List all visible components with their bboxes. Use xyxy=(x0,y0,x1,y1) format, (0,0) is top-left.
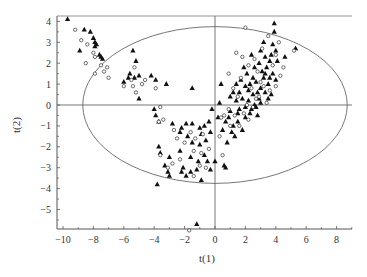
triangle-marker xyxy=(264,64,269,69)
circle-marker xyxy=(247,118,250,121)
triangle-marker xyxy=(202,123,207,128)
circle-marker xyxy=(131,84,134,87)
circle-marker xyxy=(102,70,105,73)
x-tick-label: 6 xyxy=(304,234,309,245)
circle-marker xyxy=(130,78,133,81)
y-tick-label: 0 xyxy=(46,100,51,111)
circle-marker xyxy=(143,78,146,81)
triangle-marker xyxy=(203,138,208,143)
circle-marker xyxy=(277,41,280,44)
y-tick-label: 3 xyxy=(46,37,51,48)
circle-marker xyxy=(274,84,277,87)
triangle-marker xyxy=(240,96,245,101)
triangle-marker xyxy=(88,29,93,34)
triangle-marker xyxy=(205,158,210,163)
circle-marker xyxy=(187,229,190,232)
triangle-marker xyxy=(82,27,87,32)
triangle-marker xyxy=(272,29,277,34)
circle-marker xyxy=(219,116,222,119)
circle-marker xyxy=(175,137,178,140)
triangle-marker xyxy=(196,158,201,163)
triangle-marker xyxy=(246,98,251,103)
circle-marker xyxy=(200,151,203,154)
x-tick-label: −2 xyxy=(179,234,190,245)
triangle-marker xyxy=(152,106,157,111)
circle-marker xyxy=(227,107,230,110)
circle-marker xyxy=(218,135,221,138)
triangle-marker xyxy=(206,119,211,124)
circle-marker xyxy=(253,57,256,60)
triangle-marker xyxy=(270,71,275,76)
y-tick-label: −5 xyxy=(40,204,51,215)
triangle-marker xyxy=(226,115,231,120)
triangle-marker xyxy=(155,181,160,186)
circle-marker xyxy=(207,147,210,150)
triangle-marker xyxy=(218,81,223,86)
triangle-marker xyxy=(179,125,184,130)
triangle-marker xyxy=(267,58,272,63)
x-tick-label: −4 xyxy=(149,234,160,245)
circle-marker xyxy=(267,34,270,37)
circle-marker xyxy=(279,74,282,77)
circle-marker xyxy=(221,153,224,156)
triangle-marker xyxy=(263,89,268,94)
circle-marker xyxy=(274,53,277,56)
circle-marker xyxy=(238,124,241,127)
triangle-marker xyxy=(263,54,268,59)
x-tick-label: 0 xyxy=(213,234,218,245)
triangle-marker xyxy=(167,173,172,178)
y-tick-label: 2 xyxy=(46,58,51,69)
x-tick-label: −10 xyxy=(55,234,71,245)
triangle-marker xyxy=(272,20,277,25)
triangle-marker xyxy=(266,96,271,101)
circle-marker xyxy=(201,133,204,136)
circle-marker xyxy=(204,166,207,169)
x-axis-title: t(1) xyxy=(199,252,215,265)
circle-marker xyxy=(292,49,295,52)
triangle-marker xyxy=(244,71,249,76)
circle-marker xyxy=(73,28,76,31)
circle-marker xyxy=(80,39,83,42)
triangle-marker xyxy=(91,35,96,40)
triangle-marker xyxy=(260,69,265,74)
triangle-marker xyxy=(232,133,237,138)
triangle-marker xyxy=(153,77,158,82)
triangle-marker xyxy=(184,173,189,178)
triangle-marker xyxy=(199,177,204,182)
circle-marker xyxy=(254,97,257,100)
triangle-marker xyxy=(190,140,195,145)
circle-marker xyxy=(227,72,230,75)
circle-marker xyxy=(232,87,235,90)
circle-marker xyxy=(157,120,160,123)
triangle-marker xyxy=(190,85,195,90)
x-tick-label: −6 xyxy=(118,234,129,245)
y-axis-title: t(2) xyxy=(10,117,23,133)
triangle-marker xyxy=(177,148,182,153)
circle-marker xyxy=(93,55,96,58)
circle-marker xyxy=(178,158,181,161)
triangle-marker xyxy=(234,81,239,86)
circle-marker xyxy=(140,82,143,85)
triangle-marker xyxy=(170,121,175,126)
triangle-marker xyxy=(237,89,242,94)
triangle-marker xyxy=(256,60,261,65)
circle-marker xyxy=(235,51,238,54)
triangle-marker xyxy=(261,75,266,80)
circle-marker xyxy=(171,162,174,165)
triangle-marker xyxy=(153,112,158,117)
triangle-marker xyxy=(222,163,227,168)
circle-marker xyxy=(259,80,262,83)
triangle-marker xyxy=(235,119,240,124)
triangle-marker xyxy=(258,100,263,105)
triangle-marker xyxy=(179,169,184,174)
triangle-marker xyxy=(282,54,287,59)
circle-marker xyxy=(265,101,268,104)
triangle-marker xyxy=(273,48,278,53)
triangle-marker xyxy=(197,125,202,130)
triangle-marker xyxy=(164,81,169,86)
circle-marker xyxy=(239,76,242,79)
y-tick-label: 1 xyxy=(46,79,51,90)
circle-marker xyxy=(159,153,162,156)
triangle-marker xyxy=(190,121,195,126)
circle-marker xyxy=(282,66,285,69)
